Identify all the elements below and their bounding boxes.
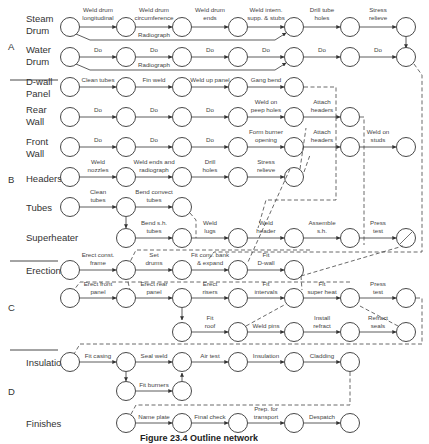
row-label: Drum — [26, 25, 49, 36]
svg-text:Weld drum: Weld drum — [139, 6, 169, 13]
row-label: Tubes — [26, 202, 52, 213]
svg-text:Fin weld: Fin weld — [142, 76, 166, 83]
svg-text:Clean: Clean — [90, 188, 107, 195]
headers-chain: Weld nozzles Weld ends and radiograph Dr… — [61, 158, 304, 187]
svg-text:Gang bend: Gang bend — [251, 76, 282, 83]
front-wall-chain: Do Do Do Form burner opening Attach head… — [61, 128, 416, 157]
svg-text:Fit casing: Fit casing — [85, 352, 112, 359]
svg-text:Radiograph: Radiograph — [138, 61, 171, 68]
svg-text:Attach: Attach — [313, 128, 331, 135]
svg-text:tubes: tubes — [146, 227, 161, 234]
svg-text:Air test: Air test — [200, 352, 220, 359]
dwall-chain: Clean tubes Fin weld Weld up panel Gang … — [61, 76, 304, 97]
svg-text:seals: seals — [371, 322, 385, 329]
svg-text:Prep. for: Prep. for — [254, 405, 278, 412]
svg-text:super heat: super heat — [307, 288, 337, 295]
svg-text:Do: Do — [150, 46, 158, 53]
svg-text:holes: holes — [203, 166, 218, 173]
group-label-d: D — [8, 386, 15, 397]
svg-text:Do: Do — [94, 46, 102, 53]
svg-text:tubes: tubes — [90, 196, 105, 203]
erection-chain-3: Fit roof Weld pins Install refract Refra… — [173, 304, 416, 342]
svg-text:opening: opening — [255, 136, 278, 143]
svg-text:headers: headers — [311, 136, 333, 143]
svg-text:Do: Do — [150, 106, 158, 113]
svg-text:longitudinal: longitudinal — [82, 14, 113, 21]
svg-text:Weld up panel: Weld up panel — [190, 76, 229, 83]
svg-text:Weld ends and: Weld ends and — [133, 158, 175, 165]
finishes-chain: Name plate Final check Prep. for transpo… — [117, 405, 360, 433]
svg-text:Weld drum: Weld drum — [83, 6, 113, 13]
svg-text:Clean tubes: Clean tubes — [81, 76, 114, 83]
svg-text:Drill: Drill — [205, 158, 216, 165]
svg-text:relieve: relieve — [369, 14, 388, 21]
group-label-c: C — [8, 302, 15, 313]
svg-text:drums: drums — [145, 259, 162, 266]
svg-text:Press: Press — [370, 219, 386, 226]
svg-text:header: header — [256, 227, 275, 234]
row-label: Erection — [26, 265, 61, 276]
svg-text:radiograph: radiograph — [139, 166, 169, 173]
svg-text:Form burner: Form burner — [249, 128, 283, 135]
svg-text:ends: ends — [203, 14, 216, 21]
row-label: Superheater — [26, 232, 78, 243]
svg-text:panel: panel — [146, 288, 161, 295]
row-label: Drum — [26, 56, 49, 67]
svg-text:Do: Do — [94, 106, 102, 113]
svg-text:Weld pins: Weld pins — [252, 322, 279, 329]
svg-text:Fit: Fit — [319, 280, 326, 287]
water-drum-chain: Do Do Do Do Do Do Radiograph — [61, 46, 416, 70]
insulation-chain: Fit casing Seal weld Air test Insulation… — [61, 352, 360, 401]
tubes-chain: Clean tubes Bend convect tubes — [61, 188, 192, 228]
svg-text:peep holes: peep holes — [251, 106, 281, 113]
svg-text:relieve: relieve — [257, 166, 276, 173]
svg-text:Final check: Final check — [194, 413, 226, 420]
svg-text:Insulation: Insulation — [253, 352, 280, 359]
svg-text:Set: Set — [149, 251, 159, 258]
row-label: Finishes — [26, 418, 62, 429]
svg-text:studs: studs — [371, 136, 386, 143]
svg-text:Despatch: Despatch — [309, 413, 336, 420]
svg-text:roof: roof — [205, 322, 216, 329]
group-label-b: B — [8, 174, 14, 185]
svg-text:Do: Do — [318, 46, 326, 53]
svg-text:transport: transport — [254, 413, 279, 420]
svg-text:Fit: Fit — [263, 280, 270, 287]
svg-text:Fit: Fit — [207, 314, 214, 321]
svg-text:Fit burners: Fit burners — [139, 381, 169, 388]
svg-text:Weld on: Weld on — [255, 98, 278, 105]
row-label: Panel — [26, 88, 50, 99]
erection-chain-1: Erect const. frame Set drums Fit conv. b… — [61, 251, 304, 280]
svg-text:Weld: Weld — [203, 219, 218, 226]
svg-text:Stress: Stress — [369, 6, 387, 13]
svg-text:headers: headers — [311, 106, 333, 113]
svg-text:Do: Do — [206, 46, 214, 53]
svg-text:Cladding: Cladding — [310, 352, 335, 359]
svg-text:Assemble: Assemble — [308, 219, 336, 226]
superheater-chain: Bend s.h. tubes Weld lugs Weld header As… — [117, 219, 416, 248]
rear-wall-chain: Do Do Do Weld on peep holes Attach heade… — [61, 98, 360, 127]
svg-text:supp. & stubs: supp. & stubs — [247, 14, 285, 21]
svg-text:Press: Press — [370, 280, 386, 287]
row-label: Wall — [26, 116, 44, 127]
svg-text:Erect: Erect — [203, 280, 218, 287]
svg-text:Weld intern.: Weld intern. — [250, 6, 283, 13]
row-label: Front — [26, 136, 49, 147]
svg-text:frame: frame — [90, 259, 106, 266]
svg-text:Drill tube: Drill tube — [310, 6, 335, 13]
svg-text:risers: risers — [202, 288, 217, 295]
svg-text:test: test — [373, 227, 383, 234]
svg-text:Do: Do — [262, 46, 270, 53]
row-label: D-wall — [26, 76, 52, 87]
svg-text:Bend convect: Bend convect — [135, 188, 173, 195]
steam-drum-chain: Weld drum longitudinal Weld drum circumf… — [61, 6, 416, 40]
svg-text:Do: Do — [206, 106, 214, 113]
svg-text:& expand: & expand — [197, 259, 224, 266]
svg-text:lugs: lugs — [204, 227, 215, 234]
network-diagram: A B C D Steam Drum Water Drum D-wall Pan… — [0, 0, 429, 444]
svg-text:Name plate: Name plate — [138, 413, 170, 420]
svg-text:intervals: intervals — [254, 288, 277, 295]
svg-text:Stress: Stress — [257, 158, 275, 165]
erection-chain-2: Erect front panel Erect rear panel Erect… — [61, 280, 416, 308]
row-label: Headers — [26, 173, 62, 184]
